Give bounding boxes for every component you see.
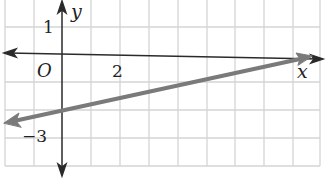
origin-label: O [37,62,52,80]
x-tick-label-2: 2 [112,63,123,80]
y-axis-label: y [71,2,82,21]
x-axis-label: x [297,62,308,81]
y-tick-label-1: 1 [43,19,54,36]
y-tick-label-neg3: −3 [22,128,47,145]
coordinate-graph: y 1 O 2 x −3 [0,0,329,191]
